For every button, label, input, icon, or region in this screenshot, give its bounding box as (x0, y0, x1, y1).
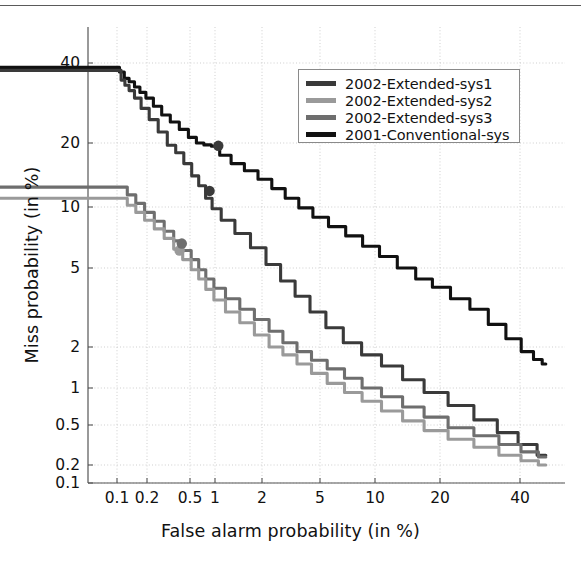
y-axis-label: Miss probability (in %) (22, 85, 42, 445)
operating-point-markers (174, 141, 223, 256)
y-tick-label: 0.2 (34, 456, 80, 474)
legend-item: 2002-Extended-sys3 (299, 109, 519, 126)
legend-item: 2002-Extended-sys1 (299, 75, 519, 92)
legend-item: 2001-Conventional-sys (299, 126, 519, 143)
legend-color-swatch (306, 98, 336, 103)
x-tick-label: 0.2 (135, 489, 160, 507)
x-tick-label: 40 (510, 489, 530, 507)
x-tick-label: 20 (430, 489, 450, 507)
legend: 2002-Extended-sys12002-Extended-sys22002… (298, 69, 520, 143)
legend-color-swatch (306, 81, 336, 86)
x-tick-label: 0.5 (178, 489, 203, 507)
legend-color-swatch (306, 132, 336, 137)
det-curve-figure: 0.10.20.5125102040 4020105210.50.20.1 Fa… (0, 0, 581, 564)
legend-item-label: 2002-Extended-sys2 (345, 93, 492, 109)
legend-item-label: 2001-Conventional-sys (345, 127, 510, 143)
legend-item-label: 2002-Extended-sys1 (345, 76, 492, 92)
y-tick-label: 40 (34, 54, 80, 72)
x-axis-label: False alarm probability (in %) (0, 521, 581, 541)
x-tick-label: 10 (365, 489, 385, 507)
x-tick-label: 5 (315, 489, 325, 507)
legend-item-label: 2002-Extended-sys3 (345, 110, 492, 126)
x-tick-label: 1 (210, 489, 220, 507)
x-tick-label: 2 (257, 489, 267, 507)
y-tick-label: 0.1 (34, 474, 80, 492)
legend-item: 2002-Extended-sys2 (299, 92, 519, 109)
legend-color-swatch (306, 115, 336, 120)
x-tick-label: 0.1 (105, 489, 130, 507)
